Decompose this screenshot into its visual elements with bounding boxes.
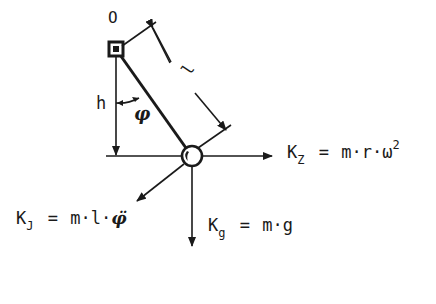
kj-symbol: K	[16, 208, 26, 228]
kg-formula: Kg = m·g	[208, 215, 293, 235]
kz-formula: KZ = m·r·ω2	[287, 142, 400, 162]
kz-symbol: K	[287, 142, 297, 162]
kg-symbol: K	[208, 215, 218, 235]
length-extension-top	[122, 22, 156, 46]
pendulum-rod	[118, 52, 186, 148]
kj-equals: =	[48, 208, 58, 228]
angle-label: φ	[134, 103, 150, 124]
pivot-label: O	[108, 8, 118, 27]
length-extension-bottom	[198, 125, 231, 148]
kg-equals: =	[240, 215, 250, 235]
kg-expression: m·g	[262, 215, 293, 235]
height-label: h	[96, 93, 106, 113]
kj-expression: m·l·	[70, 208, 111, 228]
kj-angular-acceleration: φ̈	[111, 208, 126, 228]
kz-expression: m·r·ω	[341, 142, 392, 162]
kj-subscript: J	[26, 219, 33, 233]
kz-power: 2	[392, 138, 399, 152]
pendulum-diagram: O l h φ KZ = m·r·ω2 Kg = m·g KJ = m·l·φ̈	[0, 0, 436, 304]
kz-subscript: Z	[297, 153, 304, 167]
length-dimension-lower	[195, 93, 226, 130]
kz-equals: =	[319, 142, 329, 162]
kj-force-arrow	[137, 164, 184, 201]
pendulum-bob	[182, 146, 202, 166]
kj-formula: KJ = m·l·φ̈	[16, 208, 127, 228]
kg-subscript: g	[218, 226, 225, 240]
